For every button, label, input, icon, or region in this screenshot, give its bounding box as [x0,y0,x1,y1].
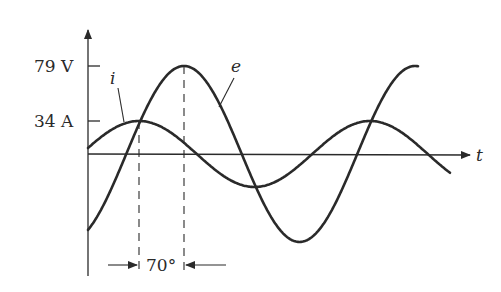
tick-label-79v: 79 V [34,56,74,76]
time-axis [88,154,470,155]
time-axis-label: t [476,145,483,165]
sine-waveform-figure: 79 V 34 A i e t 70° [0,0,501,292]
leader-line-e [219,78,234,107]
phase-angle-label: 70° [146,255,176,275]
tick-label-34a: 34 A [34,111,74,131]
leader-line-i [118,88,124,122]
curve-label-i: i [110,68,115,88]
curve-label-e: e [231,56,241,76]
